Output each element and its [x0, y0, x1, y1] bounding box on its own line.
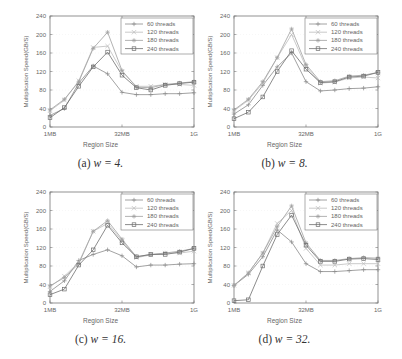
x-tick-label: 32MB — [114, 131, 130, 137]
y-tick-label: 80 — [223, 263, 230, 269]
legend-entry: 180 threads — [147, 37, 179, 43]
y-tick-label: 160 — [220, 50, 231, 56]
caption-math: w = 32. — [275, 333, 311, 345]
legend-entry: 240 threads — [147, 46, 179, 52]
caption-math: w = 8. — [278, 157, 308, 169]
chart-panel-d: 040801201602002401MB32MB1GMultiplication… — [184, 176, 385, 356]
caption-prefix: (c) — [75, 333, 88, 345]
y-tick-label: 160 — [220, 226, 231, 232]
x-tick-label: 1G — [374, 307, 382, 313]
x-tick-label: 1MB — [44, 131, 56, 137]
x-axis-label: Region Size — [0, 317, 201, 324]
y-tick-label: 0 — [43, 300, 47, 306]
y-tick-label: 240 — [36, 189, 47, 195]
y-tick-label: 160 — [36, 50, 47, 56]
legend-entry: 60 threads — [331, 197, 359, 203]
y-axis-label: Multiplication Speed(GB/S) — [23, 35, 29, 107]
series-line — [48, 224, 196, 297]
y-tick-label: 80 — [39, 87, 46, 93]
x-axis-label: Region Size — [0, 141, 201, 148]
legend-entry: 240 threads — [331, 46, 363, 52]
chart-d-svg: 040801201602002401MB32MB1GMultiplication… — [184, 176, 385, 356]
legend-entry: 180 threads — [147, 213, 179, 219]
y-axis-label: Multiplication Speed(GB/S) — [207, 35, 213, 107]
legend-entry: 120 threads — [147, 205, 179, 211]
y-tick-label: 240 — [220, 13, 231, 19]
legend-entry: 240 threads — [331, 222, 363, 228]
caption-prefix: (b) — [261, 157, 274, 169]
legend: 60 threads120 threads180 threads240 thre… — [121, 18, 193, 54]
series-line — [48, 50, 196, 119]
chart-b-svg: 040801201602002401MB32MB1GMultiplication… — [184, 0, 385, 180]
y-tick-label: 120 — [36, 245, 47, 251]
y-tick-label: 240 — [36, 13, 47, 19]
x-tick-label: 1G — [374, 131, 382, 137]
legend-entry: 180 threads — [331, 213, 363, 219]
x-tick-label: 1MB — [44, 307, 56, 313]
chart-panel-a: 040801201602002401MB32MB1GMultiplication… — [0, 0, 201, 180]
figure-caption: (a) w = 4. — [0, 157, 201, 169]
y-axis-label: Multiplication Speed(GB/S) — [207, 211, 213, 283]
y-axis-label: Multiplication Speed(GB/S) — [23, 211, 29, 283]
x-axis-label: Region Size — [184, 141, 385, 148]
caption-prefix: (d) — [259, 333, 272, 345]
x-tick-label: 32MB — [298, 131, 314, 137]
caption-math: w = 4. — [93, 157, 123, 169]
caption-prefix: (a) — [78, 157, 91, 169]
y-tick-label: 200 — [220, 32, 231, 38]
x-tick-label: 32MB — [114, 307, 130, 313]
chart-c-svg: 040801201602002401MB32MB1GMultiplication… — [0, 176, 201, 356]
y-tick-label: 120 — [220, 69, 231, 75]
legend-entry: 120 threads — [331, 29, 363, 35]
caption-math: w = 16. — [91, 333, 127, 345]
legend: 60 threads120 threads180 threads240 thre… — [305, 194, 377, 230]
chart-panel-c: 040801201602002401MB32MB1GMultiplication… — [0, 176, 201, 356]
legend-entry: 60 threads — [147, 21, 175, 27]
legend-entry: 180 threads — [331, 37, 363, 43]
y-tick-label: 40 — [39, 282, 46, 288]
y-tick-label: 40 — [223, 282, 230, 288]
figure-caption: (c) w = 16. — [0, 333, 201, 345]
x-tick-label: 1MB — [228, 307, 240, 313]
y-tick-label: 0 — [227, 300, 231, 306]
series-line — [232, 49, 380, 121]
y-tick-label: 200 — [36, 32, 47, 38]
y-tick-label: 0 — [227, 124, 231, 130]
y-tick-label: 0 — [43, 124, 47, 130]
figure-caption: (d) w = 32. — [184, 333, 385, 345]
chart-a-svg: 040801201602002401MB32MB1GMultiplication… — [0, 0, 201, 180]
legend-entry: 60 threads — [147, 197, 175, 203]
y-tick-label: 80 — [223, 87, 230, 93]
y-tick-label: 240 — [220, 189, 231, 195]
y-tick-label: 200 — [36, 208, 47, 214]
y-tick-label: 40 — [39, 106, 46, 112]
legend-entry: 60 threads — [331, 21, 359, 27]
legend-entry: 240 threads — [147, 222, 179, 228]
y-tick-label: 40 — [223, 106, 230, 112]
figure-caption: (b) w = 8. — [184, 157, 385, 169]
y-tick-label: 200 — [220, 208, 231, 214]
y-tick-label: 160 — [36, 226, 47, 232]
legend: 60 threads120 threads180 threads240 thre… — [305, 18, 377, 54]
y-tick-label: 120 — [36, 69, 47, 75]
y-tick-label: 80 — [39, 263, 46, 269]
y-tick-label: 120 — [220, 245, 231, 251]
x-tick-label: 1MB — [228, 131, 240, 137]
legend-entry: 120 threads — [147, 29, 179, 35]
x-tick-label: 32MB — [298, 307, 314, 313]
chart-panel-b: 040801201602002401MB32MB1GMultiplication… — [184, 0, 385, 180]
legend: 60 threads120 threads180 threads240 thre… — [121, 194, 193, 230]
x-axis-label: Region Size — [184, 317, 385, 324]
legend-entry: 120 threads — [331, 205, 363, 211]
